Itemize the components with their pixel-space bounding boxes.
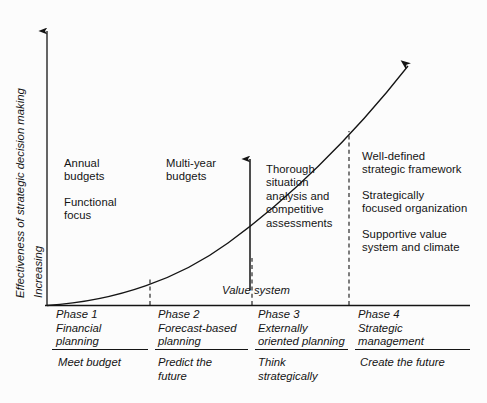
effectiveness-curve xyxy=(47,66,408,306)
phase-2-title: Phase 2 Forecast-based planning xyxy=(158,308,237,349)
phase-3-title: Phase 3 Externally oriented planning xyxy=(258,308,345,349)
y-axis-subtitle: Increasing xyxy=(32,246,44,298)
phase-1-body-annual-budgets: Annual budgets xyxy=(64,157,105,184)
phase-2-body-multi-year-budgets: Multi-year budgets xyxy=(166,157,216,184)
phase-2-outcome: Predict the future xyxy=(158,356,212,383)
phase-4-body-strategic-framework: Well-defined strategic framework xyxy=(362,150,462,177)
phase-4-body-supportive-value-system: Supportive value system and climate xyxy=(362,228,460,255)
phase-1-body-functional-focus: Functional focus xyxy=(64,196,117,223)
phase-4-outcome: Create the future xyxy=(360,356,445,370)
y-axis-title: Effectiveness of strategic decision maki… xyxy=(14,88,26,298)
phase-3-outcome: Think strategically xyxy=(258,356,318,383)
phase-1-outcome: Meet budget xyxy=(58,356,121,370)
phase-4-body-focused-organization: Strategically focused organization xyxy=(362,189,467,216)
phase-3-body-situation-analysis: Thorough situation analysis and competit… xyxy=(266,163,332,230)
phase-1-title: Phase 1 Financial planning xyxy=(56,308,101,349)
phase-4-title: Phase 4 Strategic management xyxy=(358,308,424,349)
value-system-annotation: Value system xyxy=(222,284,290,297)
strategy-evolution-diagram: Effectiveness of strategic decision maki… xyxy=(0,0,487,403)
